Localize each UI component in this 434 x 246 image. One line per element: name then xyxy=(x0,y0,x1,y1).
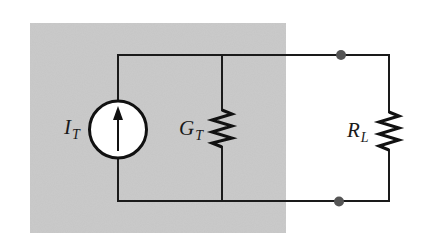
current-source-label: IT xyxy=(64,117,80,138)
conductance-symbol: G xyxy=(179,116,194,140)
current-source-subscript: T xyxy=(72,127,80,142)
load-resistor-subscript: L xyxy=(361,130,369,145)
conductance-subscript: T xyxy=(195,128,203,143)
top-terminal-dot xyxy=(336,50,346,60)
conductance-label: GT xyxy=(179,118,203,139)
load-resistor-symbol: R xyxy=(347,118,360,142)
bottom-terminal-dot xyxy=(334,197,344,207)
load-resistor-label: RL xyxy=(347,120,369,141)
current-source-symbol: I xyxy=(64,115,71,139)
load-resistor-icon xyxy=(379,112,399,150)
current-source xyxy=(90,101,147,158)
